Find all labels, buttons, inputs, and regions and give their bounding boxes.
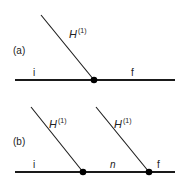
- panel-label-a: (a): [13, 45, 25, 56]
- initial-state-label-a: i: [33, 67, 35, 78]
- panel-label-b: (b): [13, 136, 25, 147]
- interaction-label-a: H: [69, 28, 77, 40]
- interaction-sup-b2: (1): [123, 117, 132, 125]
- intermediate-state-label-b: n: [110, 159, 116, 170]
- interaction-sup-a: (1): [78, 27, 87, 35]
- panel-a: (a) H (1) i f: [13, 15, 175, 83]
- interaction-label-b1: H: [49, 118, 57, 130]
- final-state-label-b: f: [157, 159, 160, 170]
- initial-state-label-b: i: [33, 159, 35, 170]
- interaction-label-b2: H: [114, 118, 122, 130]
- diagram-canvas: (a) H (1) i f (b) H (1) H (1) i n f: [0, 0, 186, 183]
- interaction-line-b1: [31, 107, 83, 172]
- interaction-line-a: [41, 15, 94, 80]
- vertex-a: [91, 77, 98, 84]
- vertex-b2: [146, 169, 153, 176]
- final-state-label-a: f: [131, 67, 134, 78]
- vertex-b1: [80, 169, 87, 176]
- interaction-sup-b1: (1): [58, 117, 67, 125]
- panel-b: (b) H (1) H (1) i n f: [13, 107, 175, 175]
